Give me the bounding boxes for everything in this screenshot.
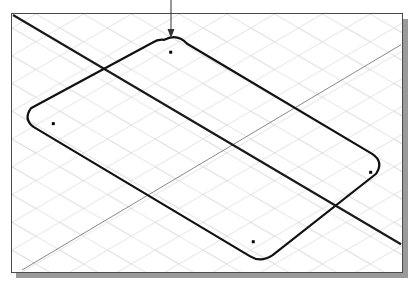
point-marker-bottom[interactable] — [252, 240, 255, 243]
point-marker-left[interactable] — [52, 122, 55, 125]
drawing-viewport[interactable] — [11, 13, 403, 273]
point-marker-right[interactable] — [369, 171, 372, 174]
cad-viewport-screen — [0, 0, 420, 289]
viewport-canvas[interactable] — [12, 14, 402, 272]
isometric-grid — [12, 14, 402, 272]
point-marker-top[interactable] — [169, 51, 172, 54]
